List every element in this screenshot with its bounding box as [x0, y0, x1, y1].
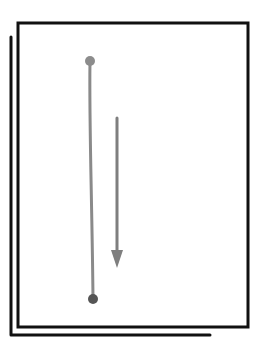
- segment-end-point: [88, 294, 98, 304]
- segment-start-point: [85, 56, 95, 66]
- diagram-canvas: [0, 0, 264, 348]
- front-page-frame: [18, 23, 248, 327]
